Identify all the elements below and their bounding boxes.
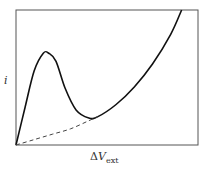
x-axis-label-delta: Δ — [90, 150, 98, 163]
dashed-baseline-curve — [16, 117, 98, 145]
x-axis-label-var: V — [98, 150, 106, 163]
y-axis-label: i — [4, 74, 8, 87]
chart-canvas — [0, 0, 207, 175]
plot-frame — [16, 10, 198, 145]
solid-current-curve — [16, 10, 182, 145]
x-axis-label-sub: ext — [106, 156, 118, 165]
x-axis-label: ΔVext — [90, 150, 118, 165]
